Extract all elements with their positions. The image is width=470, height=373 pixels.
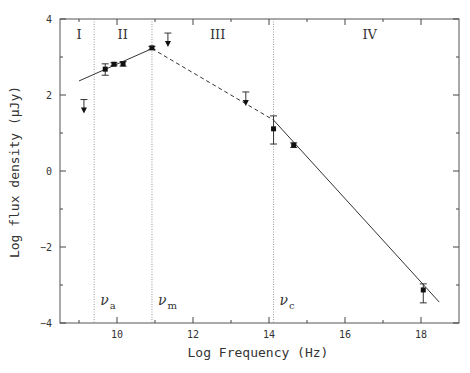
point-marker bbox=[421, 287, 426, 292]
upper-limit bbox=[80, 100, 87, 114]
upper-limit bbox=[164, 33, 171, 47]
x-tick-label: 16 bbox=[339, 329, 351, 340]
marker-label-nu-c: νc bbox=[280, 292, 296, 311]
region-labels: IIIIIIIV bbox=[76, 27, 377, 42]
point-marker bbox=[271, 126, 276, 131]
region-label-II: II bbox=[118, 27, 128, 42]
y-tick-label: 2 bbox=[46, 90, 52, 101]
data-point bbox=[290, 143, 297, 148]
sed-chart: νaνmνc 1012141618−4−2024 IIIIIIIV Log Fr… bbox=[0, 0, 470, 373]
down-arrow-icon bbox=[81, 108, 87, 114]
point-marker bbox=[121, 61, 126, 66]
data-points bbox=[80, 33, 426, 303]
x-tick-label: 14 bbox=[263, 329, 275, 340]
data-point bbox=[148, 45, 155, 50]
y-tick-label: −2 bbox=[40, 242, 52, 253]
y-tick-label: 4 bbox=[46, 14, 52, 25]
x-tick-label: 18 bbox=[415, 329, 427, 340]
data-point bbox=[270, 116, 277, 144]
upper-limit bbox=[242, 92, 249, 106]
region-label-III: III bbox=[210, 27, 225, 42]
x-axis-title: Log Frequency (Hz) bbox=[188, 345, 329, 360]
y-tick-label: 0 bbox=[46, 166, 52, 177]
data-point bbox=[110, 62, 117, 67]
point-marker bbox=[291, 143, 296, 148]
model-lines bbox=[79, 49, 439, 302]
y-axis-title: Log flux density (μJy) bbox=[7, 86, 22, 258]
down-arrow-icon bbox=[165, 41, 171, 47]
y-tick-label: −4 bbox=[40, 318, 52, 329]
x-tick-label: 12 bbox=[187, 329, 199, 340]
data-point bbox=[102, 64, 109, 75]
model-line-solid bbox=[274, 120, 440, 302]
plot-border bbox=[60, 19, 459, 323]
point-marker bbox=[149, 45, 154, 50]
x-tick-label: 10 bbox=[111, 329, 123, 340]
model-line-dashed bbox=[152, 49, 274, 120]
marker-label-nu-m: νm bbox=[158, 292, 178, 311]
region-label-I: I bbox=[76, 27, 81, 42]
point-marker bbox=[111, 62, 116, 67]
marker-label-nu-a: νa bbox=[100, 292, 116, 311]
plot-frame bbox=[60, 19, 459, 323]
point-marker bbox=[103, 67, 108, 72]
region-label-IV: IV bbox=[362, 27, 377, 42]
data-point bbox=[120, 61, 127, 66]
